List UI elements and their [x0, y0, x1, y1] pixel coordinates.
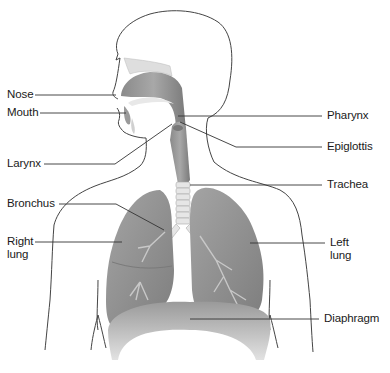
label-pharynx: Pharynx [327, 109, 369, 122]
label-epiglottis: Epiglottis [327, 140, 373, 153]
larynx [170, 122, 190, 185]
label-mouth: Mouth [7, 106, 38, 119]
label-bronchus: Bronchus [7, 197, 55, 210]
label-right-lung-line2: lung [7, 248, 33, 261]
label-left-lung-line1: Left [330, 236, 351, 249]
diaphragm [108, 302, 271, 360]
label-trachea: Trachea [327, 178, 368, 191]
label-left-lung: Left lung [330, 236, 351, 262]
label-left-lung-line2: lung [330, 249, 351, 262]
respiratory-diagram: Nose Mouth Larynx Bronchus Right lung Ph… [0, 0, 390, 373]
label-right-lung: Right lung [7, 235, 33, 261]
label-right-lung-line1: Right [7, 235, 33, 248]
label-nose: Nose [7, 88, 33, 101]
label-larynx: Larynx [7, 157, 41, 170]
label-diaphragm: Diaphragm [324, 312, 379, 325]
left-lung [190, 188, 264, 319]
